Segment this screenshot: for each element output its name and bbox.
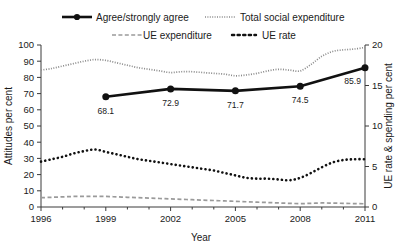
x-tick-label: 2005 — [225, 213, 246, 224]
data-point-label: 74.5 — [292, 95, 309, 105]
data-point-marker — [362, 64, 369, 71]
y-tick-label-left: 0 — [29, 201, 34, 212]
series-ue-rate — [41, 149, 365, 180]
chart-legend: Agree/strongly agree Total social expend… — [62, 12, 345, 41]
legend-item-agree-strongly-agree: Agree/strongly agree — [62, 12, 189, 23]
chart-tick-labels: 1996199920022005200820110102030405060708… — [18, 39, 382, 224]
chart-container: Agree/strongly agree Total social expend… — [0, 0, 402, 244]
legend-item-ue-expenditure: UE expenditure — [112, 30, 212, 41]
y-tick-label-left: 100 — [18, 39, 34, 50]
y-tick-label-left: 30 — [23, 153, 34, 164]
series-agree-strongly-agree — [102, 64, 368, 100]
legend-label-agree-strongly-agree: Agree/strongly agree — [96, 12, 189, 23]
data-point-label: 85.9 — [344, 76, 361, 86]
data-point-label: 71.7 — [227, 100, 244, 110]
series-line — [41, 196, 365, 203]
chart-series — [41, 47, 369, 203]
y-tick-label-left: 20 — [23, 169, 34, 180]
series-total-social-expenditure — [41, 47, 365, 75]
x-tick-label: 1996 — [30, 213, 51, 224]
data-point-marker — [297, 83, 304, 90]
x-tick-label: 1999 — [95, 213, 116, 224]
y-tick-label-left: 70 — [23, 88, 34, 99]
y-tick-label-left: 60 — [23, 104, 34, 115]
x-tick-label: 2002 — [160, 213, 181, 224]
chart-point-labels: 68.172.971.774.585.9 — [97, 76, 361, 116]
y-tick-label-left: 90 — [23, 56, 34, 67]
legend-label-total-social-expenditure: Total social expenditure — [240, 12, 345, 23]
series-line — [41, 149, 365, 180]
data-point-marker — [167, 85, 174, 92]
data-point-label: 68.1 — [97, 106, 114, 116]
y-tick-label-right: 5 — [372, 161, 377, 172]
x-axis-title: Year — [191, 232, 212, 243]
legend-label-ue-expenditure: UE expenditure — [143, 30, 212, 41]
legend-label-ue-rate: UE rate — [262, 30, 296, 41]
data-point-label: 72.9 — [162, 98, 179, 108]
x-tick-label: 2008 — [290, 213, 311, 224]
y-tick-label-left: 10 — [23, 185, 34, 196]
line-chart-figure: Agree/strongly agree Total social expend… — [0, 0, 402, 244]
data-point-marker — [102, 93, 109, 100]
y-tick-label-left: 40 — [23, 137, 34, 148]
x-tick-label: 2011 — [355, 213, 375, 224]
y-axis-title-right: UE rate & spending per cent — [383, 63, 394, 189]
legend-swatch-marker — [74, 14, 80, 20]
legend-item-total-social-expenditure: Total social expenditure — [205, 12, 345, 23]
data-point-marker — [232, 87, 239, 94]
y-tick-label-left: 50 — [23, 120, 34, 131]
y-axis-title-left: Attitudes per cent — [3, 87, 14, 165]
legend-item-ue-rate: UE rate — [232, 30, 296, 41]
y-tick-label-left: 80 — [23, 72, 34, 83]
y-tick-label-right: 15 — [372, 80, 383, 91]
chart-axes — [37, 45, 369, 211]
series-line — [41, 47, 365, 75]
series-ue-expenditure — [41, 196, 365, 203]
y-tick-label-right: 20 — [372, 39, 383, 50]
y-tick-label-right: 10 — [372, 120, 383, 131]
y-tick-label-right: 0 — [372, 201, 377, 212]
